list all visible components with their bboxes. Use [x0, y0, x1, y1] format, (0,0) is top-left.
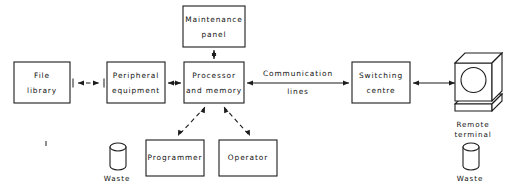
node-programmer-label: Programmer	[148, 153, 203, 162]
waste-bin-left-icon[interactable]: Waste	[104, 143, 131, 183]
remote-terminal-caption-line2: terminal	[454, 130, 491, 139]
node-peripheral-equipment-label-line2: equipment	[112, 86, 160, 95]
waste-bin-right-icon[interactable]: Waste	[457, 143, 484, 183]
node-operator[interactable]: Operator	[219, 140, 277, 176]
node-file-library-label-line2: library	[27, 86, 57, 95]
node-peripheral-equipment-label-line1: Peripheral	[113, 71, 159, 80]
edge-label-communication-lines: Communication lines	[262, 66, 335, 97]
node-switching-centre-label-line1: Switching	[359, 71, 403, 80]
node-peripheral-equipment[interactable]: Peripheral equipment	[107, 62, 165, 103]
waste-right-caption: Waste	[457, 174, 484, 183]
connection-processor-to-operator	[224, 107, 250, 136]
node-processor-memory-label-line2: and memory	[186, 86, 242, 95]
diagram-canvas: Peripheral equipment --> Processor --> M…	[0, 0, 510, 191]
remote-terminal-caption-line1: Remote	[456, 120, 489, 129]
node-maintenance-panel[interactable]: Maintenance panel	[183, 6, 245, 47]
node-maintenance-panel-label-line2: panel	[201, 30, 226, 39]
connection-processor-to-programmer	[178, 107, 205, 136]
remote-terminal-icon[interactable]: Remote terminal	[454, 53, 502, 139]
communication-lines-label-line1: Communication	[263, 69, 333, 78]
node-maintenance-panel-label-line1: Maintenance	[185, 15, 243, 24]
system-block-diagram: Peripheral equipment --> Processor --> M…	[0, 0, 510, 191]
node-processor-memory[interactable]: Processor and memory	[184, 62, 244, 103]
connection-processor-to-maintenance	[212, 50, 217, 59]
node-processor-memory-label-line1: Processor	[192, 71, 236, 80]
connection-switching-to-terminal	[413, 81, 455, 86]
node-file-library[interactable]: File library	[14, 62, 70, 103]
node-file-library-label-line1: File	[34, 71, 50, 80]
connection-peripheral-to-processor	[168, 81, 181, 86]
waste-left-caption: Waste	[104, 174, 131, 183]
node-programmer[interactable]: Programmer	[146, 140, 204, 176]
communication-lines-label-line2: lines	[287, 87, 309, 96]
connection-file-to-peripheral	[73, 79, 104, 88]
node-switching-centre[interactable]: Switching centre	[352, 62, 410, 103]
node-switching-centre-label-line2: centre	[366, 86, 395, 95]
node-operator-label: Operator	[228, 153, 268, 162]
